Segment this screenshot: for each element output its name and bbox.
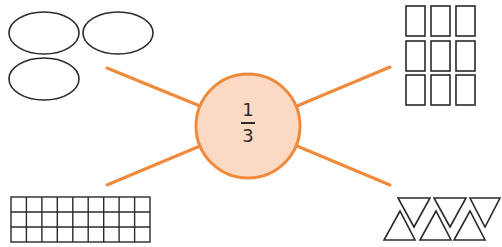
rectangle [406, 6, 425, 36]
rectangle [406, 75, 425, 105]
rectangle [431, 75, 450, 105]
triangles-group [384, 198, 500, 240]
triangle-up [384, 211, 415, 240]
spoke-top-right [297, 67, 390, 106]
rectangle [431, 41, 450, 71]
triangle-down [398, 198, 430, 227]
grid-outline [11, 197, 150, 242]
triangle-down [434, 198, 466, 227]
spoke-bottom-left [107, 146, 200, 185]
oval [9, 58, 79, 100]
triangle-down [470, 198, 500, 227]
rectangle [431, 6, 450, 36]
grid-group [11, 197, 150, 242]
oval [83, 12, 153, 54]
fraction-label: 1 3 [223, 100, 273, 146]
spoke-bottom-right [297, 146, 390, 185]
rectangle [456, 6, 475, 36]
ovals-group [9, 12, 153, 100]
fraction-denominator: 3 [223, 126, 273, 146]
fraction-numerator: 1 [223, 100, 273, 120]
rectangles-group [406, 6, 475, 105]
rectangle [406, 41, 425, 71]
triangle-up [420, 211, 451, 240]
triangle-up [454, 211, 485, 240]
rectangle [456, 41, 475, 71]
oval [9, 12, 79, 54]
rectangle [456, 75, 475, 105]
fraction-bar [241, 122, 255, 124]
spoke-top-left [107, 68, 200, 106]
